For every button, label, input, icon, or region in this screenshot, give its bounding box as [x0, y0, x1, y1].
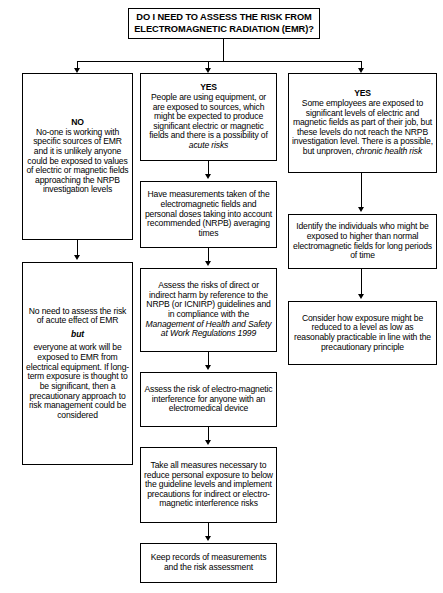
arrowhead-left-1 [74, 255, 80, 260]
middle-column-yes-box: YES People are using equipment, or are e… [140, 73, 277, 161]
right-yes-body: Some employees are exposed to significan… [292, 99, 433, 157]
mid-yes-body: People are using equipment, or are expos… [144, 93, 273, 151]
right-column-identify-box: Identify the individuals who might be ex… [288, 214, 437, 269]
connector-title-stem [223, 39, 224, 62]
arrowhead-mid-3 [205, 365, 211, 370]
right-yes-emphasis: chronic health risk [356, 146, 422, 156]
middle-column-measures-box: Take all measures necessary to reduce pe… [140, 447, 277, 523]
connector-mid-4 [208, 427, 209, 441]
right-column-yes-box: YES Some employees are exposed to signif… [288, 73, 437, 173]
mid-measures-body: Take all measures necessary to reduce pe… [144, 461, 273, 509]
left-no-need-emphasis: but [26, 330, 129, 340]
left-no-need-part2: everyone at work will be exposed to EMR … [26, 343, 129, 420]
connector-right-1 [361, 173, 362, 208]
connector-mid-1 [208, 161, 209, 175]
mid-measurements-body: Have measurements taken of the electroma… [144, 190, 273, 238]
arrowhead-mid-2 [205, 261, 211, 266]
right-consider-body: Consider how exposure might be reduced t… [292, 314, 433, 353]
middle-column-records-box: Keep records of measurements and the ris… [140, 543, 277, 583]
middle-column-interference-box: Assess the risk of electro-magnetic inte… [140, 372, 277, 427]
middle-column-assess-risks-box: Assess the risks of direct or indirect h… [140, 268, 277, 352]
arrowhead-right-1 [358, 207, 364, 212]
connector-mid-5 [208, 523, 209, 537]
mid-yes-part1: People are using equipment, or are expos… [149, 92, 267, 141]
mid-assess-risks-emphasis: Management of Health and Safety at Work … [146, 319, 272, 339]
connector-right-2 [361, 269, 362, 295]
middle-column-measurements-box: Have measurements taken of the electroma… [140, 181, 277, 248]
right-column-consider-box: Consider how exposure might be reduced t… [288, 301, 437, 365]
left-no-need-part1: No need to assess the risk of acute effe… [26, 307, 129, 326]
mid-assess-risks-part1: Assess the risks of direct or indirect h… [146, 280, 270, 319]
connector-horizontal-bus [77, 61, 362, 62]
mid-records-body: Keep records of measurements and the ris… [144, 553, 273, 572]
left-column-no-need-box: No need to assess the risk of acute effe… [22, 262, 133, 465]
left-no-body: No-one is working with specific sources … [26, 128, 129, 195]
mid-yes-emphasis: acute risks [189, 140, 228, 150]
flowchart-title-box: DO I NEED TO ASSESS THE RISK FROM ELECTR… [128, 8, 320, 39]
connector-mid-3 [208, 352, 209, 366]
title-line-2: ELECTROMAGNETIC RADIATION (EMR)? [132, 24, 316, 36]
connector-mid-2 [208, 248, 209, 262]
right-identify-body: Identify the individuals who might be ex… [292, 222, 433, 261]
arrowhead-mid-1 [205, 174, 211, 179]
title-line-1: DO I NEED TO ASSESS THE RISK FROM [132, 12, 316, 24]
arrowhead-mid-5 [205, 536, 211, 541]
mid-assess-risks-body: Assess the risks of direct or indirect h… [144, 281, 273, 339]
flowchart-page: DO I NEED TO ASSESS THE RISK FROM ELECTR… [0, 0, 443, 593]
connector-left-1 [77, 240, 78, 256]
mid-interference-body: Assess the risk of electro-magnetic inte… [144, 385, 273, 414]
left-column-no-box: NO No-one is working with specific sourc… [22, 73, 133, 240]
arrowhead-right-2 [358, 294, 364, 299]
arrowhead-mid-4 [205, 440, 211, 445]
